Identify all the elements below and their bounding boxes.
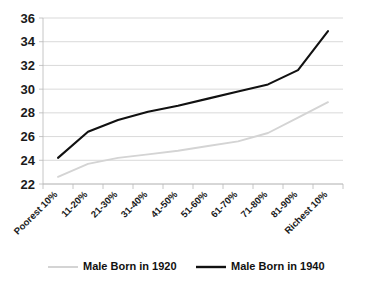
xtick-label-1: 11-20% [59,188,90,219]
ytick-label-24: 24 [21,153,36,168]
ytick-label-32: 32 [21,58,35,73]
gridlines-group: 2224262830323436 [21,11,343,192]
xtick-label-4: 41-50% [148,188,179,219]
chart-canvas: 2224262830323436Poorest 10%11-20%21-30%3… [0,0,365,289]
xtick-group: Poorest 10%11-20%21-30%31-40%41-50%51-60… [11,184,343,237]
xtick-label-7: 71-80% [238,188,269,219]
series-line-0 [58,102,328,177]
ytick-label-28: 28 [21,105,35,120]
ytick-label-30: 30 [21,82,35,97]
line-chart: 2224262830323436Poorest 10%11-20%21-30%3… [0,0,365,289]
ytick-label-36: 36 [21,11,35,26]
ytick-label-22: 22 [21,177,35,192]
xtick-label-5: 51-60% [178,188,209,219]
legend: Male Born in 1920Male Born in 1940 [48,260,325,272]
ytick-label-34: 34 [21,34,36,49]
ytick-label-26: 26 [21,129,35,144]
xtick-label-0: Poorest 10% [11,188,59,236]
series-line-1 [58,31,328,158]
legend-label-1: Male Born in 1940 [231,260,325,272]
xtick-label-6: 61-70% [208,188,239,219]
series-group [58,31,328,177]
legend-label-0: Male Born in 1920 [83,260,177,272]
xtick-label-3: 31-40% [118,188,149,219]
xtick-label-2: 21-30% [88,188,119,219]
